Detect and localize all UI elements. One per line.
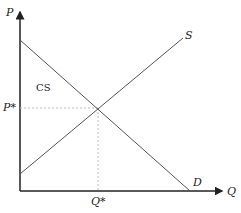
demand-curve <box>20 40 190 191</box>
q-star-label: Q* <box>91 195 106 208</box>
supply-label: S <box>185 29 193 42</box>
q-axis-label: Q <box>227 185 236 198</box>
cs-label: CS <box>36 82 51 93</box>
p-star-label: P* <box>2 101 16 114</box>
demand-label: D <box>192 176 202 189</box>
supply-curve <box>20 38 183 174</box>
p-axis-label: P <box>5 6 14 19</box>
supply-demand-chart: P Q P* Q* CS S D <box>0 0 241 213</box>
